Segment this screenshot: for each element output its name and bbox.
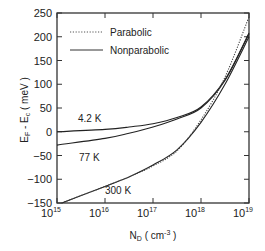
x-tick-label: 1015 xyxy=(41,206,61,219)
x-axis-title: ND ( cm-3 ) xyxy=(130,229,177,242)
y-tick-label: −100 xyxy=(27,173,52,185)
annotation-77k: 77 K xyxy=(79,152,100,163)
annotation-300k: 300 K xyxy=(105,185,131,196)
y-tick-label: 250 xyxy=(34,7,52,19)
y-tick-label: −50 xyxy=(33,150,52,162)
y-tick-labels: 250200150100500−50−100−150 xyxy=(27,7,52,209)
x-tick-label: 1018 xyxy=(185,206,205,219)
legend: Parabolic Nonparabolic xyxy=(70,27,169,56)
x-tick-labels: 10151016101710181019 xyxy=(41,206,253,219)
axis-ticks xyxy=(57,13,249,203)
y-tick-label: 200 xyxy=(34,31,52,43)
y-tick-label: 50 xyxy=(40,102,52,114)
x-tick-label: 1019 xyxy=(233,206,253,219)
y-axis-title: EF - Ec ( meV ) xyxy=(19,77,31,143)
legend-parabolic-label: Parabolic xyxy=(110,27,152,38)
fermi-level-chart: 250200150100500−50−100−150 1015101610171… xyxy=(0,0,265,251)
y-tick-label: 0 xyxy=(46,126,52,138)
x-tick-label: 1017 xyxy=(137,206,157,219)
legend-nonparabolic-label: Nonparabolic xyxy=(110,45,169,56)
y-tick-label: 150 xyxy=(34,55,52,67)
y-tick-label: 100 xyxy=(34,78,52,90)
x-tick-label: 1016 xyxy=(89,206,109,219)
plot-frame xyxy=(57,13,249,203)
annotation-4-2k: 4.2 K xyxy=(78,113,102,124)
